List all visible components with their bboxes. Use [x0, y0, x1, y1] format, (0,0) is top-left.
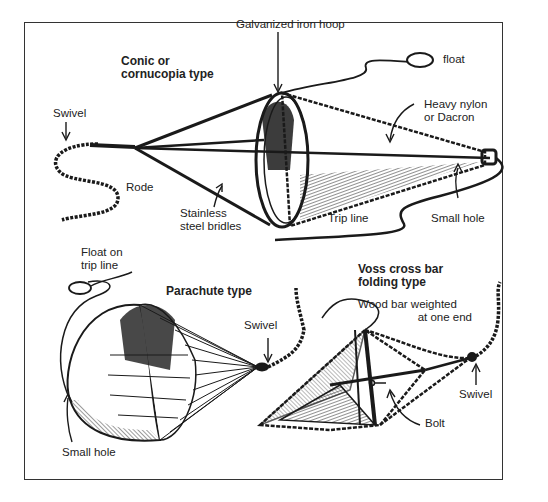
label-float-trip-line: Float on trip line [81, 246, 123, 272]
label-small-hole-conic: Small hole [431, 212, 485, 225]
label-bridles-line-1: Stainless [180, 207, 241, 220]
label-float-trip-line-1: Float on [81, 246, 123, 259]
label-small-hole-parachute: Small hole [62, 446, 116, 459]
label-wood-bar-line-1: Wood bar weighted [358, 298, 472, 311]
label-rode: Rode [126, 181, 154, 194]
label-trip-line: Trip line [328, 212, 368, 225]
label-swivel-parachute: Swivel [244, 319, 277, 332]
label-float-trip-line-2: trip line [81, 259, 123, 272]
label-bolt: Bolt [425, 417, 445, 430]
label-bridles: Stainless steel bridles [180, 207, 241, 233]
parachute-title: Parachute type [166, 285, 252, 298]
label-hoop: Galvanized iron hoop [236, 18, 345, 31]
label-swivel-conic: Swivel [53, 107, 86, 120]
conic-title-line-2: cornucopia type [121, 68, 214, 81]
label-heavy-nylon: Heavy nylon or Dacron [424, 98, 487, 124]
conic-title: Conic or cornucopia type [121, 55, 214, 81]
label-wood-bar-line-2: at one end [358, 311, 472, 324]
label-nylon-line-2: or Dacron [424, 111, 487, 124]
voss-title: Voss cross bar folding type [358, 263, 443, 289]
rode-line [56, 144, 118, 220]
voss-title-line-2: folding type [358, 276, 443, 289]
label-bridles-line-2: steel bridles [180, 220, 241, 233]
swivel-top [90, 145, 135, 147]
label-wood-bar: Wood bar weighted at one end [358, 298, 472, 324]
label-nylon-line-1: Heavy nylon [424, 98, 487, 111]
label-swivel-voss: Swivel [459, 388, 492, 401]
label-float: float [443, 53, 465, 66]
